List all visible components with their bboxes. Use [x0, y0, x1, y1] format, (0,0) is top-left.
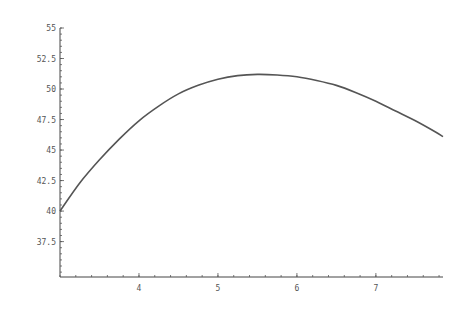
x-axis: 4567	[60, 273, 443, 293]
x-tick-label: 4	[137, 284, 142, 293]
y-tick-label: 55	[46, 24, 56, 33]
x-tick-label: 7	[373, 284, 378, 293]
y-tick-label: 37.5	[37, 238, 56, 247]
series-group	[60, 74, 443, 211]
y-tick-label: 45	[46, 146, 56, 155]
y-tick-label: 47.5	[37, 116, 56, 125]
x-tick-label: 5	[216, 284, 221, 293]
y-tick-label: 52.5	[37, 55, 56, 64]
y-tick-label: 40	[46, 207, 56, 216]
series-line-curve	[60, 74, 443, 211]
y-tick-label: 42.5	[37, 177, 56, 186]
line-chart: 37.54042.54547.55052.555 4567	[0, 0, 468, 311]
y-axis: 37.54042.54547.55052.555	[37, 24, 64, 277]
x-tick-label: 6	[294, 284, 299, 293]
y-tick-label: 50	[46, 85, 56, 94]
